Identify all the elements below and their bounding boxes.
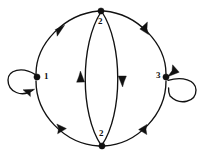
edge-bottom-to-top-inner-left [85, 12, 101, 145]
node-label-top: 2 [98, 17, 103, 26]
node-dot-left [34, 74, 40, 80]
node-dot-right [163, 74, 169, 80]
node-dot-top [98, 8, 104, 14]
node-label-right: 3 [156, 71, 161, 80]
node-label-bottom: 2 [99, 129, 104, 138]
self-loop-right [168, 79, 196, 102]
directed-graph-figure: 1 2 2 3 [0, 0, 204, 158]
node-label-left: 1 [44, 72, 49, 81]
edge-right-to-bottom [104, 81, 166, 146]
arrowhead-top-to-right [140, 22, 149, 35]
arrowhead-top-to-bottom-inner [118, 76, 126, 87]
edge-bottom-to-left [36, 81, 99, 146]
edge-top-to-bottom-inner-right [102, 12, 118, 145]
node-dot-bottom [99, 143, 105, 149]
arrowhead-self-loop-right [168, 65, 180, 77]
arrowhead-bottom-to-top-inner [77, 71, 85, 82]
